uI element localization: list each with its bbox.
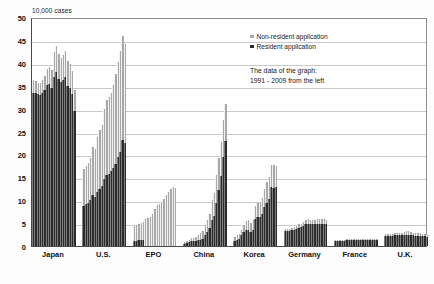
y-axis-tick-label: 5 bbox=[2, 220, 26, 229]
y-axis-tick-label: 30 bbox=[2, 105, 26, 114]
bar bbox=[174, 19, 176, 246]
x-axis-category-label: EPO bbox=[146, 250, 162, 259]
x-axis-category-label: U.S. bbox=[96, 250, 111, 259]
chart-legend: Non-resident applicationResident applica… bbox=[250, 33, 328, 53]
bar-group bbox=[82, 19, 126, 246]
bar-group bbox=[32, 19, 76, 246]
bar bbox=[275, 19, 277, 246]
bar-group bbox=[133, 19, 177, 246]
plot-area bbox=[31, 18, 427, 247]
bar-segment-nonresident bbox=[73, 90, 75, 111]
bar-group bbox=[284, 19, 328, 246]
bar-segment-nonresident bbox=[124, 44, 126, 143]
legend-item: Resident application bbox=[250, 43, 328, 50]
legend-swatch-icon bbox=[250, 45, 254, 49]
y-axis-tick-label: 10 bbox=[2, 197, 26, 206]
y-axis-tick-label: 20 bbox=[2, 151, 26, 160]
bar-segment-resident bbox=[275, 187, 277, 246]
x-axis-category-label: U.K. bbox=[398, 250, 413, 259]
x-axis-category-label: China bbox=[193, 250, 214, 259]
x-axis-category-label: Japan bbox=[42, 250, 64, 259]
bar-group bbox=[334, 19, 378, 246]
y-axis-tick-label: 15 bbox=[2, 174, 26, 183]
y-axis-tick-label: 40 bbox=[2, 59, 26, 68]
bar-segment-nonresident bbox=[275, 166, 277, 187]
bar-segment-nonresident bbox=[224, 104, 226, 142]
x-axis-category-label: Germany bbox=[288, 250, 321, 259]
bar bbox=[426, 19, 428, 246]
bar-segment-resident bbox=[325, 224, 327, 246]
legend-label: Resident application bbox=[257, 43, 316, 50]
bar-segment-resident bbox=[224, 141, 226, 246]
y-axis-tick-label: 45 bbox=[2, 36, 26, 45]
annotation-line-1: The data of the graph: bbox=[250, 66, 324, 76]
bar bbox=[73, 19, 75, 246]
bar-group bbox=[183, 19, 227, 246]
bar-segment-resident bbox=[124, 143, 126, 246]
legend-label: Non-resident application bbox=[257, 33, 328, 40]
y-axis-tick-label: 50 bbox=[2, 14, 26, 23]
bar bbox=[375, 19, 377, 246]
chart-annotation: The data of the graph: 1991 - 2009 from … bbox=[250, 66, 324, 85]
bar-segment-resident bbox=[375, 240, 377, 246]
legend-swatch-icon bbox=[250, 35, 254, 39]
y-axis-tick-label: 35 bbox=[2, 82, 26, 91]
x-axis-category-label: Korea bbox=[244, 250, 265, 259]
y-axis-tick-label: 0 bbox=[2, 243, 26, 252]
chart-container: 10,000 cases 05101520253035404550 JapanU… bbox=[0, 0, 434, 284]
bars-layer bbox=[32, 19, 426, 246]
bar-segment-nonresident bbox=[174, 188, 176, 246]
bar-segment-resident bbox=[426, 237, 428, 246]
x-axis-category-label: France bbox=[342, 250, 367, 259]
annotation-line-2: 1991 - 2009 from the left bbox=[250, 76, 324, 86]
bar bbox=[325, 19, 327, 246]
legend-item: Non-resident application bbox=[250, 33, 328, 40]
bar bbox=[224, 19, 226, 246]
y-axis-title: 10,000 cases bbox=[32, 7, 72, 14]
bar bbox=[124, 19, 126, 246]
bar-segment-resident bbox=[73, 111, 75, 246]
bar-group bbox=[384, 19, 428, 246]
y-axis-tick-label: 25 bbox=[2, 128, 26, 137]
bar-group bbox=[233, 19, 277, 246]
